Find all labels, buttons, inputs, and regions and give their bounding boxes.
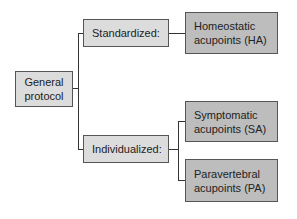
sa-label: Symptomatic acupoints (SA)	[194, 108, 266, 136]
individualized-node: Individualized:	[83, 135, 169, 163]
ha-label: Homeostatic acupoints (HA)	[194, 19, 267, 47]
root-node: General protocol	[15, 71, 73, 107]
connector-to-pa	[178, 180, 185, 181]
pa-node: Paravertebral acupoints (PA)	[185, 159, 278, 202]
individualized-label: Individualized:	[92, 142, 162, 156]
standardized-label: Standardized:	[92, 26, 160, 40]
connector-individualized-branch	[168, 149, 178, 150]
root-label: General protocol	[24, 75, 63, 103]
connector-standardized-ha	[168, 33, 185, 34]
standardized-node: Standardized:	[83, 19, 169, 47]
connector-trunk	[78, 33, 79, 150]
ha-node: Homeostatic acupoints (HA)	[185, 12, 278, 54]
pa-label: Paravertebral acupoints (PA)	[194, 167, 265, 195]
sa-node: Symptomatic acupoints (SA)	[185, 101, 278, 142]
connector-to-sa	[178, 121, 185, 122]
connector-branch-trunk	[178, 121, 179, 181]
